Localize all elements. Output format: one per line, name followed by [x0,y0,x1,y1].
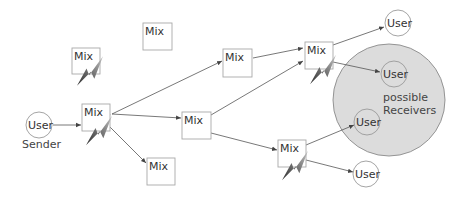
mix-top-center: Mix [143,23,172,50]
svg-text:User: User [355,168,381,181]
mix-bottom: Mix [147,158,175,185]
user-top-right: User [385,10,413,36]
edge-upper-middle-to-right-top [253,48,303,58]
edge-right-bottom-to-user-bottom [306,160,353,172]
edge-mix-sender-to-center [112,114,181,118]
svg-text:Mix: Mix [149,160,169,173]
svg-text:Mix: Mix [184,114,204,127]
mix-upper-middle: Mix [223,49,252,77]
svg-text:Mix: Mix [145,25,165,38]
svg-text:Mix: Mix [307,44,327,57]
mix-network-diagram: possible Receivers Mix Mix Mix Mix Mix [0,0,463,201]
mix-right-top: Mix [305,42,336,84]
mix-center: Mix [182,112,211,139]
svg-text:Mix: Mix [74,50,94,63]
mix-top-left: Mix [72,48,103,86]
user-sender: User Sender [22,112,61,151]
region-label-line1: possible [383,91,428,104]
edge-right-top-to-user-top [333,27,384,45]
svg-text:Mix: Mix [280,142,300,155]
svg-text:User: User [387,17,413,30]
svg-text:User: User [383,68,409,81]
svg-text:User: User [356,116,382,129]
sender-caption: Sender [22,138,61,151]
mix-right-bottom: Mix [278,140,308,180]
svg-text:User: User [28,119,54,132]
region-label-line2: Receivers [383,104,437,117]
edge-mix-sender-to-upper-middle [112,61,222,114]
mix-sender: Mix [82,104,112,145]
edge-mix-sender-to-bottom [110,127,146,163]
edge-center-to-right-bottom [211,133,277,150]
svg-text:Mix: Mix [84,106,104,119]
svg-text:Mix: Mix [225,51,245,64]
user-bottom-right: User [353,161,381,187]
